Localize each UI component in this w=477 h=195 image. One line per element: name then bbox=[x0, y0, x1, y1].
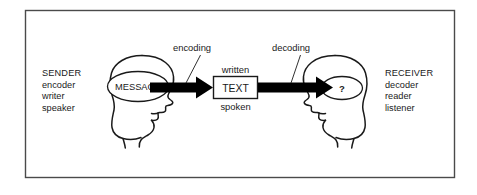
receiver-title: RECEIVER bbox=[385, 68, 433, 78]
sender-role-writer: writer bbox=[41, 91, 64, 101]
thought-label: ? bbox=[339, 83, 345, 94]
sender-role-speaker: speaker bbox=[42, 103, 75, 113]
receiver-role-reader: reader bbox=[385, 91, 412, 101]
channel-written-label: written bbox=[221, 64, 250, 75]
diagram-canvas: SENDER encoder writer speaker RECEIVER d… bbox=[0, 0, 477, 195]
receiver-role-listener: listener bbox=[385, 103, 415, 113]
receiver-role-decoder: decoder bbox=[385, 80, 418, 90]
text-channel-label: TEXT bbox=[222, 83, 249, 94]
sender-role-encoder: encoder bbox=[42, 80, 75, 90]
decoding-label: decoding bbox=[272, 42, 310, 53]
communication-model-figure: SENDER encoder writer speaker RECEIVER d… bbox=[0, 0, 477, 195]
sender-title: SENDER bbox=[42, 68, 81, 78]
encoding-label: encoding bbox=[173, 42, 211, 53]
channel-spoken-label: spoken bbox=[220, 101, 250, 112]
